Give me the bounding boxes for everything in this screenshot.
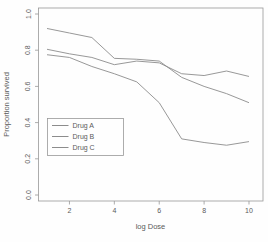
legend-label: Drug C (73, 144, 95, 152)
x-tick-label: 6 (157, 207, 161, 214)
legend-label: Drug A (73, 122, 95, 130)
y-tick-label: 0.6 (25, 81, 32, 91)
y-tick-label: 0.8 (25, 45, 32, 55)
y-tick-label: 0.0 (25, 190, 32, 200)
y-tick-label: 1.0 (25, 9, 32, 19)
x-tick-label: 10 (245, 207, 253, 214)
x-axis-ticks: 246810 (67, 201, 252, 214)
y-axis-ticks: 0.00.20.40.60.81.0 (25, 9, 39, 200)
x-axis-title: log Dose (136, 222, 166, 231)
legend-label: Drug B (73, 133, 95, 141)
series-line-drug-a (47, 28, 249, 102)
x-tick-label: 2 (67, 207, 71, 214)
y-tick-label: 0.2 (25, 154, 32, 164)
x-tick-label: 8 (202, 207, 206, 214)
y-tick-label: 0.4 (25, 118, 32, 128)
series-line-drug-b (47, 49, 249, 76)
legend: Drug ADrug BDrug C (48, 119, 124, 156)
y-axis-title: Proportion survived (2, 72, 11, 137)
chart-figure: 246810 0.00.20.40.60.81.0 Drug ADrug BDr… (0, 0, 268, 242)
x-tick-label: 4 (112, 207, 116, 214)
plot-border (39, 8, 264, 201)
line-chart-svg: 246810 0.00.20.40.60.81.0 Drug ADrug BDr… (0, 0, 268, 242)
